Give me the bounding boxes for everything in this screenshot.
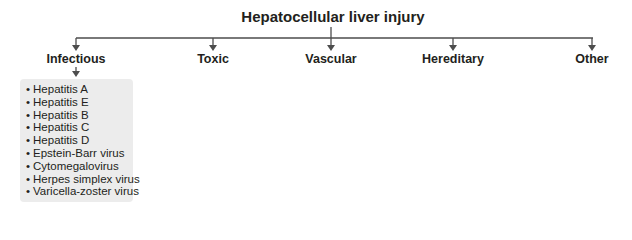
list-item: Hepatitis C	[26, 121, 133, 134]
category-vascular: Vascular	[305, 52, 356, 66]
category-hereditary: Hereditary	[422, 52, 484, 66]
category-toxic: Toxic	[197, 52, 229, 66]
list-item: Epstein-Barr virus	[26, 147, 133, 160]
list-item: Varicella-zoster virus	[26, 185, 133, 198]
list-item: Hepatitis D	[26, 134, 133, 147]
category-infectious: Infectious	[46, 52, 105, 66]
list-item: Hepatitis B	[26, 109, 133, 122]
list-item: Hepatitis A	[26, 83, 133, 96]
list-item: Cytomegalovirus	[26, 160, 133, 173]
infectious-causes-box: Hepatitis A Hepatitis E Hepatitis B Hepa…	[20, 79, 133, 202]
list-item: Herpes simplex virus	[26, 173, 133, 186]
category-other: Other	[575, 52, 608, 66]
list-item: Hepatitis E	[26, 96, 133, 109]
infectious-causes-list: Hepatitis A Hepatitis E Hepatitis B Hepa…	[20, 79, 133, 198]
